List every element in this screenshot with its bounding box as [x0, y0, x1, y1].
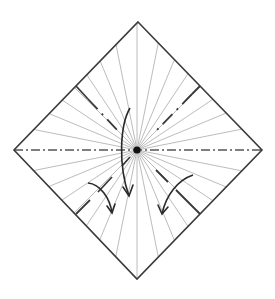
lower-left-fold-segment — [76, 200, 90, 214]
crease-pattern-diagram — [0, 0, 275, 299]
lower-right-fold-segment — [176, 190, 200, 214]
diagram-canvas — [0, 0, 275, 299]
center-point — [133, 146, 140, 153]
upper-left-fold-segment — [76, 86, 88, 99]
lower-right-fold-inner — [156, 170, 168, 182]
radial-crease — [75, 88, 137, 150]
upper-right-fold-segment — [192, 86, 200, 94]
